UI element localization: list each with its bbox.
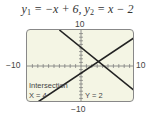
calculator-screen: Intersection X = 4 Y = 2 — [26, 29, 134, 102]
xmax-label: 10 — [136, 60, 145, 70]
xmin-label: −10 — [6, 60, 20, 70]
intersection-x: X = 4 — [29, 91, 47, 100]
intersection-label: Intersection — [29, 81, 68, 90]
intersection-y: Y = 2 — [85, 91, 103, 100]
graph-title: y1 = −x + 6, y2 = x − 2 — [0, 2, 155, 17]
ymin-label: −10 — [71, 104, 85, 114]
ymax-label: 10 — [75, 19, 84, 29]
line-y1 — [59, 30, 134, 91]
